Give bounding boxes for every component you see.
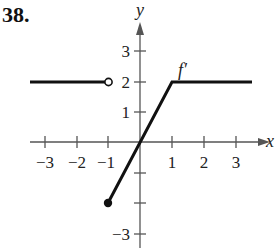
closed-dot-marker [104, 199, 112, 207]
curve-label: f′ [178, 60, 188, 80]
open-circle-marker [105, 78, 112, 85]
x-tick-label: −3 [36, 153, 54, 172]
y-axis-arrow-icon [136, 22, 144, 35]
y-tick-label: −3 [112, 225, 130, 244]
x-tick-label: 3 [232, 153, 241, 172]
x-tick-label: −2 [68, 153, 86, 172]
y-tick-label: 3 [122, 42, 131, 61]
y-axis-label: y [134, 0, 144, 20]
x-axis-label: x [265, 131, 274, 151]
y-tick-label: 2 [122, 73, 131, 92]
x-tick-label: 2 [200, 153, 209, 172]
graph: −3 −2 −1 1 2 3 3 2 1 −3 x y f′ [0, 0, 277, 250]
axes [30, 30, 262, 248]
x-tick-label: 1 [168, 153, 177, 172]
y-tick-label: 1 [122, 103, 131, 122]
x-tick-label: −1 [97, 153, 115, 172]
